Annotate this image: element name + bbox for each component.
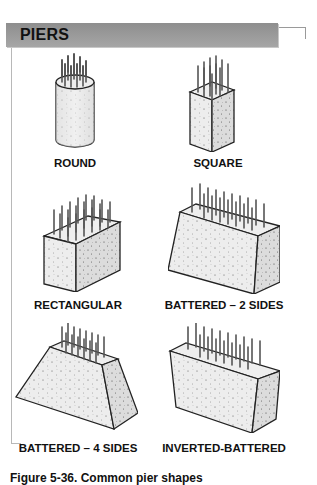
square-label: SQUARE [193,157,242,169]
inverted-battered-label: INVERTED-BATTERED [162,442,286,454]
frame-left-border [11,46,12,443]
figure-caption: Figure 5-36. Common pier shapes [10,471,203,485]
page-title: PIERS [20,26,69,44]
rectangular-label: RECTANGULAR [34,299,122,311]
rectangular-pier-illustration [38,192,128,292]
round-pier-illustration [42,52,108,152]
round-label: ROUND [54,157,96,169]
frame-right-border [305,27,306,39]
header-bar: PIERS [6,23,278,47]
frame-top-border [278,27,305,28]
battered-4-sides-pier-illustration [14,323,138,433]
square-pier-illustration [184,52,250,152]
battered-4-sides-label: BATTERED – 4 SIDES [19,442,138,454]
battered-2-sides-pier-illustration [168,182,280,294]
inverted-battered-pier-illustration [168,323,280,433]
battered-2-sides-label: BATTERED – 2 SIDES [165,299,284,311]
